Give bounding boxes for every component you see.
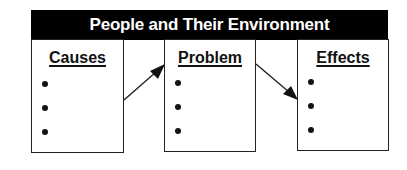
arrow-causes-to-problem: [124, 64, 165, 100]
connector-arrows: [0, 0, 407, 170]
arrow-problem-to-effects: [256, 64, 298, 100]
